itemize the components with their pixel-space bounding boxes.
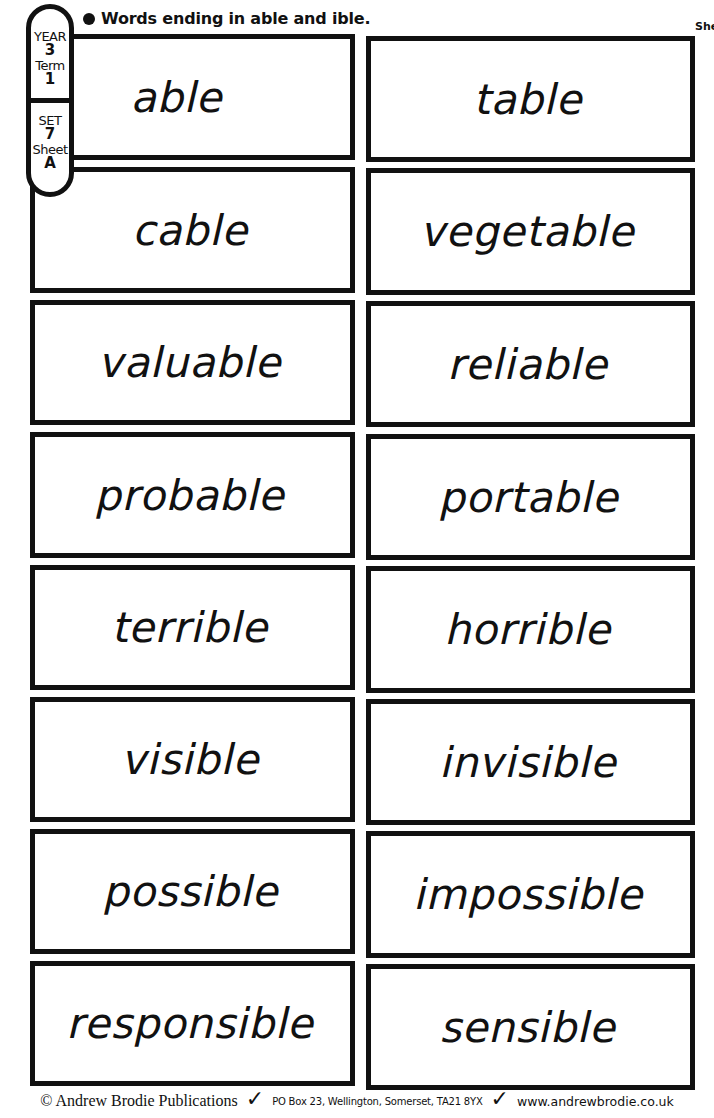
word-text: terrible [113, 603, 271, 652]
word-card: responsible [30, 961, 355, 1086]
set-value: 7 [45, 127, 55, 142]
bullet-icon [83, 13, 95, 25]
website-link[interactable]: www.andrewbrodie.co.uk [517, 1094, 674, 1109]
set-sheet-section: SET 7 Sheet A [31, 103, 69, 192]
word-text: sensible [442, 1003, 620, 1052]
word-text: responsible [68, 999, 317, 1048]
year-term-section: YEAR 3 Term 1 [31, 9, 69, 103]
word-card: terrible [30, 565, 355, 690]
word-card: vegetable [366, 168, 695, 295]
word-text: visible [123, 735, 262, 784]
word-card: valuable [30, 300, 355, 425]
word-card: portable [366, 434, 695, 560]
word-card: cable [30, 167, 355, 293]
word-card: horrible [366, 566, 695, 693]
word-text: possible [104, 867, 282, 916]
year-set-badge: YEAR 3 Term 1 SET 7 Sheet A [26, 4, 74, 197]
publisher-footer: © Andrew Brodie Publications ✓ PO Box 23… [0, 1088, 714, 1114]
word-text: invisible [441, 738, 620, 787]
word-card: visible [30, 697, 355, 822]
worksheet-title-text: Words ending in able and ible. [101, 9, 370, 28]
checkmark-icon: ✓ [491, 1088, 509, 1110]
sheet-corner-label: She [695, 20, 714, 33]
word-card: invisible [366, 699, 695, 825]
word-card: able [62, 34, 355, 160]
word-text: portable [440, 473, 622, 522]
word-text: vegetable [423, 207, 639, 256]
address-text: PO Box 23, Wellington, Somerset, TA21 8Y… [272, 1096, 482, 1107]
year-value: 3 [45, 43, 55, 58]
word-text: horrible [446, 605, 614, 654]
word-text: impossible [415, 870, 646, 919]
word-text: cable [134, 206, 251, 255]
word-text: probable [97, 471, 289, 520]
word-text: table [475, 75, 586, 124]
word-text: reliable [449, 340, 611, 389]
word-card: reliable [366, 301, 695, 427]
worksheet-title: Words ending in able and ible. [83, 9, 370, 28]
copyright-text: © Andrew Brodie Publications [40, 1092, 237, 1110]
word-card: sensible [366, 964, 695, 1090]
word-text: valuable [100, 338, 285, 387]
term-value: 1 [45, 72, 55, 87]
sheet-value: A [44, 156, 56, 171]
word-card: impossible [366, 831, 695, 958]
word-card: table [366, 36, 695, 162]
word-card: probable [30, 432, 355, 558]
word-text: able [132, 73, 226, 122]
worksheet-page: Words ending in able and ible. She YEAR … [0, 0, 714, 1118]
word-card: possible [30, 829, 355, 954]
checkmark-icon: ✓ [246, 1088, 264, 1110]
